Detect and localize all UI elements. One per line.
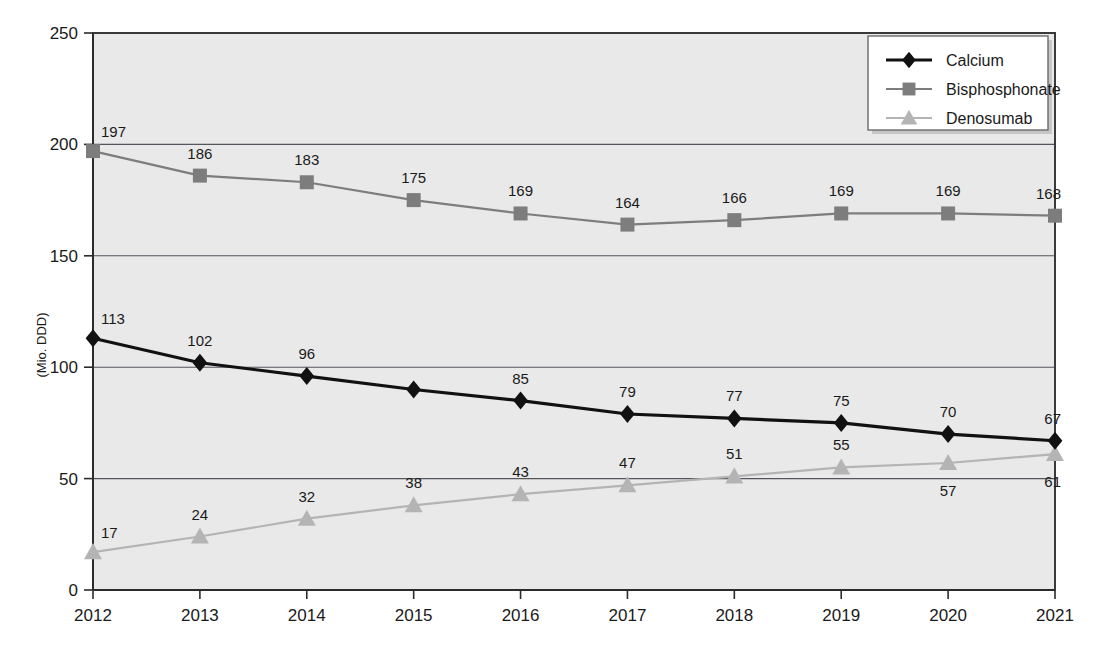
data-label: 175	[401, 169, 426, 186]
x-tick-label: 2018	[715, 606, 753, 625]
square-marker	[941, 206, 955, 220]
data-label: 75	[833, 392, 850, 409]
data-label: 169	[829, 182, 854, 199]
x-tick-label: 2019	[822, 606, 860, 625]
data-label: 32	[298, 488, 315, 505]
data-label: 17	[101, 524, 118, 541]
data-label: 169	[508, 182, 533, 199]
data-label: 169	[936, 182, 961, 199]
x-tick-label: 2012	[74, 606, 112, 625]
data-label: 67	[1044, 410, 1061, 427]
data-label: 43	[512, 463, 529, 480]
y-tick-label: 50	[59, 470, 78, 489]
data-label: 186	[187, 145, 212, 162]
x-tick-label: 2015	[395, 606, 433, 625]
y-tick-label: 0	[69, 581, 78, 600]
data-label: 79	[619, 383, 636, 400]
data-label: 96	[298, 345, 315, 362]
square-marker	[193, 169, 207, 183]
x-tick-label: 2020	[929, 606, 967, 625]
square-marker	[407, 193, 421, 207]
data-label: 77	[726, 387, 743, 404]
x-tick-label: 2013	[181, 606, 219, 625]
square-marker	[514, 206, 528, 220]
square-marker	[834, 206, 848, 220]
data-label: 24	[192, 506, 209, 523]
chart-container: 050100150200250 201220132014201520162017…	[0, 0, 1095, 651]
y-tick-label: 150	[50, 247, 78, 266]
square-marker	[727, 213, 741, 227]
data-label: 168	[1036, 185, 1061, 202]
data-label: 113	[101, 310, 125, 327]
square-marker	[300, 175, 314, 189]
legend-label-calcium: Calcium	[946, 52, 1004, 69]
y-axis-ticks: 050100150200250	[50, 24, 93, 600]
data-label: 70	[940, 403, 957, 420]
data-label: 164	[615, 194, 640, 211]
square-marker	[620, 218, 634, 232]
data-label: 102	[187, 332, 212, 349]
data-label: 166	[722, 189, 747, 206]
data-label: 57	[940, 482, 957, 499]
y-axis-title: (Mio. DDD)	[34, 313, 49, 378]
x-tick-label: 2021	[1036, 606, 1074, 625]
chart-legend: CalciumBisphosphonateDenosumab	[868, 36, 1061, 134]
x-tick-label: 2017	[609, 606, 647, 625]
square-marker	[903, 83, 916, 96]
y-tick-label: 250	[50, 24, 78, 43]
data-label: 197	[101, 123, 126, 140]
x-axis-ticks: 2012201320142015201620172018201920202021	[74, 590, 1074, 625]
data-label: 47	[619, 454, 636, 471]
data-label: 51	[726, 445, 743, 462]
square-marker	[86, 144, 100, 158]
y-tick-label: 200	[50, 135, 78, 154]
line-chart: 050100150200250 201220132014201520162017…	[0, 0, 1095, 651]
data-label: 183	[294, 151, 319, 168]
legend-label-denosumab: Denosumab	[946, 110, 1032, 127]
data-label: 38	[405, 474, 422, 491]
legend-label-bisphosphonate: Bisphosphonate	[946, 81, 1061, 98]
data-label: 55	[833, 436, 850, 453]
x-tick-label: 2014	[288, 606, 326, 625]
data-label: 85	[512, 370, 529, 387]
square-marker	[1048, 209, 1062, 223]
data-label: 61	[1044, 473, 1061, 490]
y-tick-label: 100	[50, 358, 78, 377]
x-tick-label: 2016	[502, 606, 540, 625]
